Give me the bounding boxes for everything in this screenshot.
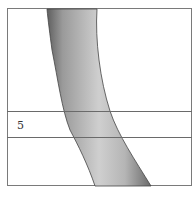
bone-shaft-render — [0, 0, 196, 199]
band-bottom-line — [7, 137, 192, 138]
band-top-line — [7, 111, 192, 112]
region-label: 5 — [17, 119, 24, 132]
